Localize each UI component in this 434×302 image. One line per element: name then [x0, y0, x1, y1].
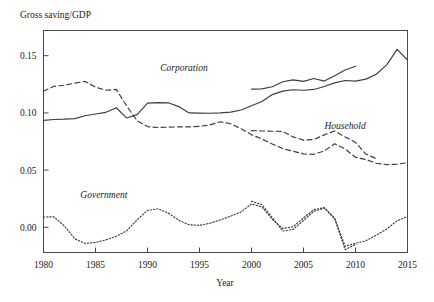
series-line-government — [44, 204, 408, 246]
chart-canvas: Gross saving/GDP 0.000.050.100.15 198019… — [0, 0, 434, 302]
y-axis-ticks: 0.000.050.100.15 — [20, 51, 49, 233]
series-label-household: Household — [324, 121, 366, 131]
x-tick-label: 1980 — [34, 260, 53, 270]
series-line-corporation-alternative-measure — [252, 66, 356, 89]
series-line-corporation — [44, 49, 408, 120]
y-tick-label: 0.15 — [20, 51, 37, 61]
series-label-corporation: Corporation — [160, 63, 208, 73]
x-axis-title: Year — [216, 278, 234, 288]
y-tick-label: 0.10 — [20, 108, 37, 118]
series-line-government-alternative-measure — [252, 201, 356, 249]
y-axis-title: Gross saving/GDP — [20, 10, 91, 20]
x-tick-label: 1990 — [138, 260, 157, 270]
x-tick-label: 2010 — [346, 260, 365, 270]
x-tick-label: 1995 — [190, 260, 209, 270]
series-label-government: Government — [80, 190, 127, 200]
y-tick-label: 0.05 — [20, 166, 37, 176]
data-series-group — [44, 49, 408, 249]
gross-saving-gdp-chart: Gross saving/GDP 0.000.050.100.15 198019… — [0, 0, 434, 302]
x-tick-label: 2015 — [398, 260, 417, 270]
series-annotations: CorporationHouseholdGovernment — [80, 63, 366, 200]
x-axis-ticks: 19801985199019952000200520102015 — [34, 248, 417, 270]
x-tick-label: 1985 — [86, 260, 105, 270]
x-tick-label: 2000 — [242, 260, 261, 270]
x-tick-label: 2005 — [294, 260, 313, 270]
y-tick-label: 0.00 — [20, 223, 37, 233]
